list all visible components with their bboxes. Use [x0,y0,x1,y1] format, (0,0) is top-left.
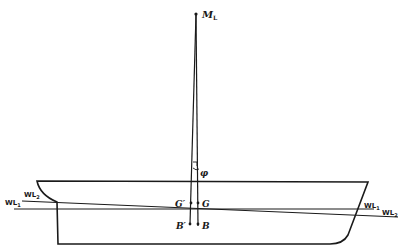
label-g: G [202,199,210,209]
label-wl2-right: WL2 [382,209,398,218]
vertical-gprime-bprime-line [190,14,196,224]
right-angle-mark [193,162,197,166]
point-m-l [194,12,197,15]
label-wl2-left: WL2 [24,191,40,200]
point-b [197,223,200,226]
point-b-prime [189,223,192,226]
ship-trim-diagram: ML φ G′ G B′ B WL2 WL1 WL1 WL2 [0,0,406,252]
hull-outline [37,181,368,244]
label-b-prime: B′ [175,221,187,231]
label-g-prime: G′ [175,199,186,209]
label-wl1-left: WL1 [5,199,21,208]
angle-arc [193,168,199,170]
label-b: B [201,221,210,231]
vertical-g-b-line [196,14,198,226]
label-metacentre: ML [201,9,218,21]
point-g-prime [190,202,193,205]
point-g [197,202,200,205]
label-wl1-right: WL1 [364,202,380,211]
label-angle-phi: φ [200,168,209,178]
